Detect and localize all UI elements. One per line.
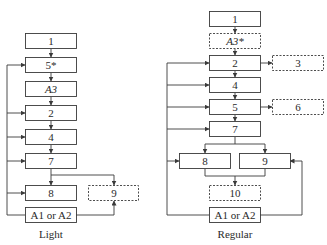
- regular-label-6: 6: [295, 101, 301, 113]
- regular-arrow-7-9: [235, 144, 265, 153]
- light-label-8: 8: [48, 187, 54, 199]
- light-arrow-a-9: [76, 201, 114, 215]
- light-label-a3: A3: [44, 83, 58, 95]
- regular-label-5: 5: [232, 101, 238, 113]
- regular-feedback-left-line: [167, 63, 209, 215]
- regular-label-4: 4: [232, 79, 238, 91]
- light-label-4: 4: [48, 131, 54, 143]
- regular-labels: 1 A3* 2 3 4 5 6 7 8 9 10 A1 or A2 Regula…: [202, 13, 301, 240]
- light-label-7: 7: [48, 155, 54, 167]
- light-caption: Light: [39, 228, 63, 240]
- regular-label-10: 10: [230, 187, 242, 199]
- regular-label-3: 3: [295, 57, 301, 69]
- light-label-1: 1: [48, 35, 54, 47]
- light-label-5-star: 5*: [46, 59, 57, 71]
- regular-merge-8-9: [205, 169, 265, 176]
- regular-label-9: 9: [262, 155, 268, 167]
- regular-label-8: 8: [202, 155, 208, 167]
- light-labels: 1 5* A3 2 4 7 8 9 A1 or A2 Light: [31, 35, 118, 240]
- light-label-a1-or-a2: A1 or A2: [31, 209, 72, 221]
- regular-label-2: 2: [232, 57, 238, 69]
- regular-label-7: 7: [232, 123, 238, 135]
- regular-arrow-7-8: [205, 144, 235, 153]
- light-feedback-line: [7, 65, 25, 215]
- light-label-9: 9: [111, 187, 117, 199]
- light-arrow-7-9: [51, 175, 114, 185]
- regular-flow: [167, 12, 324, 223]
- regular-label-a1-or-a2: A1 or A2: [215, 209, 256, 221]
- regular-caption: Regular: [218, 228, 253, 240]
- regular-label-1: 1: [232, 13, 238, 25]
- light-label-2: 2: [48, 107, 54, 119]
- light-flow: [7, 34, 139, 223]
- flow-diagram: 1 5* A3 2 4 7 8 9 A1 or A2 Light: [0, 0, 327, 245]
- regular-label-a3-star: A3*: [225, 35, 244, 47]
- regular-feedback-right-9: [260, 161, 302, 215]
